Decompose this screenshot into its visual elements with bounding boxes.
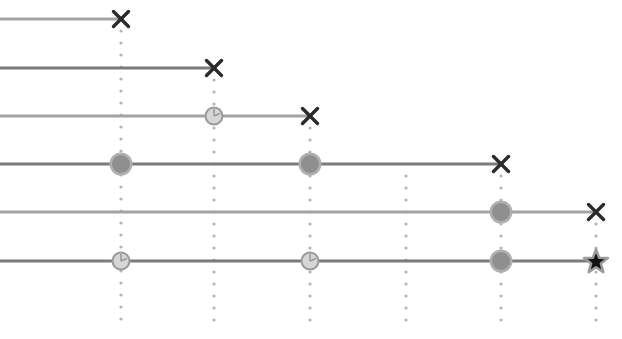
column-guide-6 [594,222,597,321]
timeline-diagram [0,0,622,339]
clock-icon [206,108,223,125]
column-guide-4 [404,174,407,321]
column-guides [119,29,597,321]
filled-circle-icon [299,153,322,176]
row-lines [0,19,596,261]
timeline-canvas [0,0,622,339]
column-guide-5 [499,174,502,321]
filled-circle-icon [110,153,133,176]
filled-circle-icon [490,201,513,224]
clock-icon [113,253,130,270]
star-icon [584,250,608,273]
markers [110,12,608,273]
clock-icon [302,253,319,270]
filled-circle-icon [490,250,513,273]
